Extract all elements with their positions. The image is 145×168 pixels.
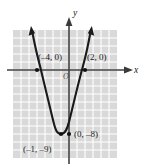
point-x-intercept-left [35, 68, 39, 72]
label-x-intercept-left: (–4, 0) [38, 52, 62, 62]
parabola-figure: x y O (–4, 0) (2, 0) (0, –8) (–1, –9) [0, 0, 145, 168]
label-x-intercept-right: (2, 0) [87, 52, 107, 62]
origin-label: O [63, 72, 69, 81]
graph-canvas: x y O (–4, 0) (2, 0) (0, –8) (–1, –9) [0, 0, 145, 168]
x-axis-label: x [133, 65, 139, 75]
point-y-intercept [67, 132, 71, 136]
y-axis-label: y [72, 8, 78, 18]
point-vertex [59, 132, 63, 136]
label-y-intercept: (0, –8) [74, 129, 98, 139]
point-x-intercept-right [83, 68, 87, 72]
label-vertex: (–1, –9) [23, 144, 52, 154]
